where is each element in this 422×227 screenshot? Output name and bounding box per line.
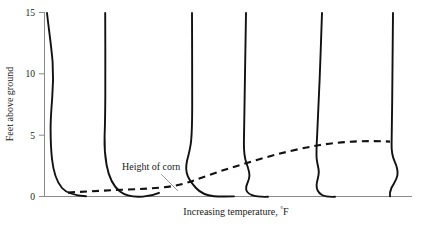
- x-axis-title-main: Increasing temperature,: [183, 206, 280, 217]
- y-tick-label-5: 5: [30, 131, 35, 141]
- y-tick-label-15: 15: [26, 8, 36, 18]
- y-tick-label-0: 0: [30, 192, 35, 202]
- y-axis-title: Feet above ground: [4, 67, 15, 141]
- temperature-profile-figure: 15 10 5 0 Feet above ground Increasing t…: [0, 0, 422, 227]
- profile-curve-4: [244, 13, 268, 197]
- x-axis-title-unit: F: [283, 206, 289, 217]
- chart-canvas: 15 10 5 0 Feet above ground Increasing t…: [0, 0, 422, 227]
- profile-curve-6: [390, 13, 398, 196]
- profile-curve-1: [47, 13, 86, 196]
- x-axis-title: Increasing temperature, °F: [183, 205, 289, 217]
- y-tick-label-10: 10: [26, 69, 36, 79]
- annotation-leader-line: [161, 174, 178, 191]
- corn-height-curve: [68, 141, 390, 193]
- height-of-corn-label: Height of corn: [122, 161, 180, 172]
- profile-curve-5: [316, 13, 335, 197]
